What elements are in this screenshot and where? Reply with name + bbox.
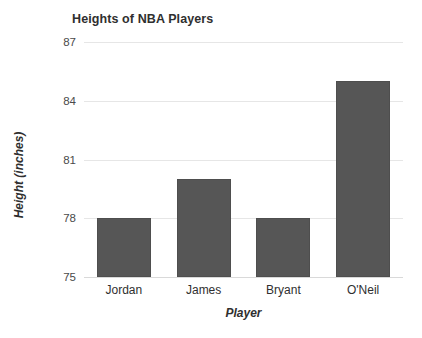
y-tick-label: 75	[63, 271, 76, 283]
x-tick-label: Jordan	[106, 283, 143, 297]
y-axis-title: Height (inches)	[12, 115, 26, 235]
bar	[256, 218, 310, 277]
bar-chart: Heights of NBA Players Height (inches) 7…	[0, 0, 422, 338]
gridline	[84, 42, 403, 43]
x-tick-label: O'Neil	[347, 283, 379, 297]
y-tick-label: 78	[63, 212, 76, 224]
chart-title: Heights of NBA Players	[72, 12, 213, 26]
y-tick-label: 84	[63, 95, 76, 107]
x-axis-title: Player	[84, 306, 403, 320]
bar	[336, 81, 390, 277]
plot-area: 7578818487JordanJamesBryantO'Neil	[84, 42, 403, 277]
y-tick-label: 87	[63, 36, 76, 48]
x-tick-label: James	[186, 283, 221, 297]
bar	[177, 179, 231, 277]
x-tick-label: Bryant	[266, 283, 301, 297]
gridline	[84, 277, 403, 278]
y-tick-label: 81	[63, 154, 76, 166]
bar	[97, 218, 151, 277]
